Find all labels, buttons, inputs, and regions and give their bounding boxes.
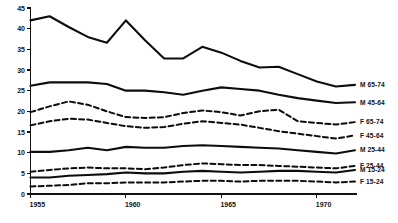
- legend-label-m-15-24: M 15-24: [360, 166, 385, 173]
- series-line-m-25-44: [31, 145, 356, 153]
- legend-label-m-45-64: M 45-64: [360, 99, 385, 106]
- series-line-m-65-74: [31, 16, 356, 86]
- chart-legend: M 65-74M 45-64F 65-74F 45-64M 25-44F 25-…: [360, 81, 385, 185]
- legend-label-f-15-24: F 15-24: [360, 178, 384, 185]
- series-line-m-15-24: [31, 170, 356, 177]
- x-axis-ticks: 1955196019651970: [30, 194, 332, 208]
- series-line-f-15-24: [31, 181, 356, 187]
- x-tick-label: 1970: [316, 201, 332, 208]
- x-tick-label: 1955: [30, 201, 46, 208]
- y-tick-label: 0: [21, 191, 25, 198]
- legend-label-m-65-74: M 65-74: [360, 81, 385, 88]
- y-tick-label: 35: [17, 46, 25, 53]
- line-chart: 051015202530354045 1955196019651970 M 65…: [0, 0, 398, 223]
- legend-label-m-25-44: M 25-44: [360, 146, 385, 153]
- series-line-m-45-64: [31, 82, 356, 103]
- legend-label-f-45-64: F 45-64: [360, 132, 384, 139]
- y-axis-ticks: 051015202530354045: [17, 5, 30, 198]
- y-tick-label: 5: [21, 170, 25, 177]
- y-tick-label: 25: [17, 87, 25, 94]
- y-tick-label: 20: [17, 108, 25, 115]
- y-tick-label: 10: [17, 149, 25, 156]
- chart-plot-area: 051015202530354045 1955196019651970 M 65…: [0, 0, 398, 223]
- legend-label-f-65-74: F 65-74: [360, 118, 384, 125]
- y-tick-label: 15: [17, 129, 25, 136]
- y-tick-label: 45: [17, 5, 25, 12]
- series-lines: [31, 16, 356, 186]
- y-tick-label: 40: [17, 25, 25, 32]
- x-tick-label: 1965: [220, 201, 236, 208]
- x-tick-label: 1960: [125, 201, 141, 208]
- series-line-f-65-74: [31, 101, 356, 124]
- y-tick-label: 30: [17, 67, 25, 74]
